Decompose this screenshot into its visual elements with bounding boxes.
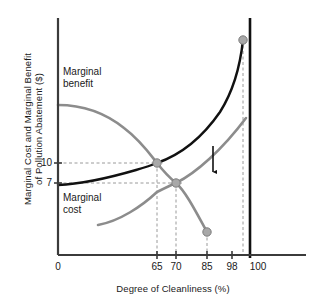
marginal-cost-label: Marginal cost [63,192,101,215]
x-tick-label-0: 0 [48,261,68,273]
marker-marginal-cost-endpoint [239,36,247,44]
x-tick-label-100: 100 [245,261,271,273]
marker-equilibrium-new [172,179,180,187]
x-axis-title: Degree of Cleanliness (%) [58,283,288,294]
y-tick-label-7: 7 [28,177,52,189]
y-tick-label-10: 10 [28,157,52,169]
x-tick-label-98: 98 [222,261,242,273]
y-axis-title: Marginal Cost and Marginal Benefit of Po… [22,34,44,224]
plot-area [58,18,306,255]
pollution-abatement-chart: Marginal Cost and Marginal Benefit of Po… [0,0,310,304]
marginal-benefit-label: Marginal benefit [63,66,101,89]
x-tick-label-70: 70 [166,261,186,273]
x-tick-label-65: 65 [147,261,167,273]
chart-canvas [0,0,310,304]
marker-marginal-benefit-endpoint [203,228,211,236]
x-tick-label-85: 85 [197,261,217,273]
marker-equilibrium-original [153,159,161,167]
